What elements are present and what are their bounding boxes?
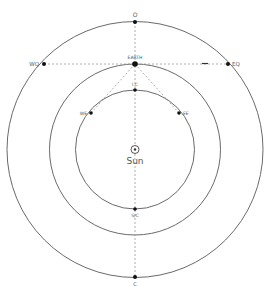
- conjunction-point: [133, 275, 137, 279]
- inferior-conjunction-point: [133, 88, 137, 92]
- earth-label: EARTH: [128, 55, 143, 60]
- western-quadrature-point: [42, 62, 46, 66]
- superior-conjunction-point: [133, 207, 137, 211]
- planetary-configurations-diagram: O WQ EQ EARTH I.C WE EE Sun S/C C: [0, 0, 266, 296]
- superior-conjunction-label: S/C: [131, 213, 139, 218]
- inferior-conjunction-label: I.C: [132, 82, 138, 87]
- eastern-elongation-label: EE: [183, 111, 189, 116]
- eastern-elongation-point: [177, 111, 181, 115]
- eastern-quadrature-point: [226, 62, 230, 66]
- western-elongation-line: [91, 64, 135, 113]
- sun-icon: [131, 146, 139, 154]
- opposition-point: [133, 20, 137, 24]
- sun-label: Sun: [126, 156, 143, 166]
- opposition-label: O: [133, 11, 138, 18]
- western-elongation-label: WE: [80, 111, 87, 116]
- western-elongation-point: [89, 111, 93, 115]
- earth-point: [132, 61, 138, 67]
- eastern-quadrature-label: EQ: [232, 61, 240, 67]
- western-quadrature-label: WQ: [29, 61, 39, 67]
- eastern-elongation-line: [135, 64, 179, 113]
- conjunction-label: C: [133, 281, 137, 287]
